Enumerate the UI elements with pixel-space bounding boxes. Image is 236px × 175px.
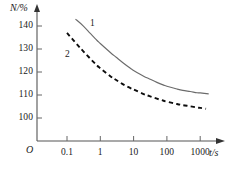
chart-figure: N/% t/s O 100110120130140 0.11101001000 …: [0, 0, 236, 175]
curve-label-2: 2: [65, 50, 70, 60]
y-axis-tick-label: 140: [8, 21, 33, 31]
origin-label: O: [26, 145, 33, 155]
x-axis-arrow-icon: [216, 138, 225, 144]
y-axis-tick-label: 130: [8, 44, 33, 54]
y-axis-tick-label: 120: [8, 67, 33, 77]
y-axis-tick-label: 100: [8, 113, 33, 123]
axes-group: [34, 4, 225, 144]
y-axis-arrow-icon: [34, 4, 40, 12]
chart-series-group: [67, 19, 209, 109]
x-axis-ticks: [67, 136, 200, 141]
chart-series-curve-1: [76, 19, 209, 94]
x-axis-tick-label: 1000: [180, 148, 220, 158]
y-axis-tick-label: 110: [8, 90, 33, 100]
y-axis-ticks: [37, 26, 42, 118]
chart-series-curve-2: [67, 33, 206, 109]
curve-label-1: 1: [90, 19, 95, 29]
y-axis-title: N/%: [10, 3, 28, 13]
